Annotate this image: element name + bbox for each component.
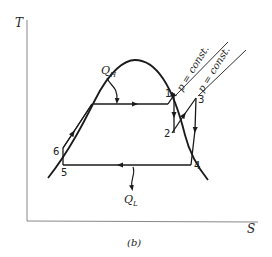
y-axis-label: T (15, 16, 24, 30)
point-label-6: 6 (53, 146, 59, 157)
x-axis (27, 221, 258, 222)
point-label-5: 5 (61, 167, 67, 178)
x-axis-label: S (247, 222, 255, 236)
process-6-arrow (63, 104, 92, 148)
point-label-4: 4 (194, 160, 200, 171)
point-label-2: 2 (164, 128, 170, 139)
heat-in-label: QH (101, 64, 117, 79)
point-label-3: 3 (198, 94, 204, 105)
ts-diagram: T S (b) p = const. p = const. QH QL 1 2 … (0, 0, 272, 257)
heat-out-arrow (132, 167, 134, 188)
heat-in-arrow (107, 78, 117, 101)
heat-out-label: QL (124, 193, 138, 208)
point-label-1: 1 (165, 88, 171, 99)
figure-caption: (b) (127, 237, 141, 248)
process-3-4 (191, 98, 196, 165)
